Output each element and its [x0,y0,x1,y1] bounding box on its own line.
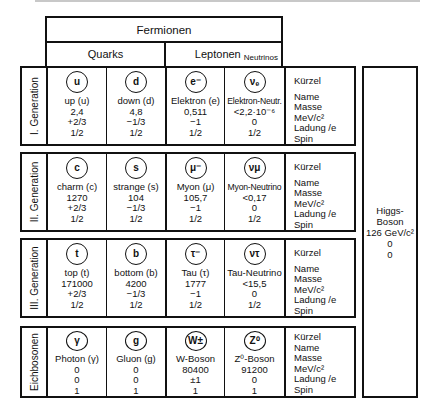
quarks-header: Quarks [45,41,166,68]
generation-3-row: III. Generation ttop (t)171000+2/31/2 bb… [20,238,356,318]
quarks-label: Quarks [88,48,123,60]
generation-1-row: I. Generation uup (u)2,4+2/31/2 ddown (d… [20,66,356,146]
particle-photon: γPhoton (γ)001 [48,328,107,396]
particle-symbol: t [66,243,88,265]
leptons-label: Leptonen [195,48,241,60]
higgs-mass: 126 GeV/c² [366,227,414,238]
higgs-spin: 0 [387,249,392,260]
particle-tau: τ⁻Tau (τ)1777−11/2 [167,240,225,316]
fermionen-header: Fermionen [45,16,283,43]
particle-strange: sstrange (s)104−1/31/2 [107,154,167,230]
particle-top: ttop (t)171000+2/31/2 [48,240,107,316]
particle-symbol: τ⁻ [185,243,207,265]
neutrinos-label: Neutrinos [244,53,278,62]
particle-charm: ccharm (c)1270+2/31/2 [48,154,107,230]
particle-symbol: W± [185,331,207,351]
generation-label: II. Generation [22,154,48,230]
particle-symbol: c [66,157,88,179]
particle-symbol: s [125,157,147,179]
particle-symbol: νμ [244,157,266,179]
leptons-header: Leptonen Neutrinos [164,41,283,68]
particle-symbol: ντ [244,243,266,265]
particle-symbol: g [125,331,147,351]
generation-label: III. Generation [22,240,48,316]
particle-symbol: u [66,71,88,93]
fermionen-title: Fermionen [137,24,192,36]
particle-z-boson: Z⁰Z⁰-Boson9120001 [225,328,286,396]
particle-w-boson: W±W-Boson80400±11 [167,328,225,396]
particle-bottom: bbottom (b)4200−1/31/2 [107,240,167,316]
particle-muon-neutrino: νμMyon-Neutrino<0,1701/2 [225,154,286,230]
particle-symbol: νₑ [244,71,266,93]
gauge-bosons-row: Eichbosonen γPhoton (γ)001 gGluon (g)001… [20,326,356,398]
legend: KürzelNameMasse MeV/c²Ladung /eSpin [286,328,354,396]
particle-up: uup (u)2,4+2/31/2 [48,68,107,144]
particle-symbol: γ [66,331,88,351]
higgs-charge: 0 [387,238,392,249]
legend: KürzelNameMasse MeV/c²Ladung /eSpin [286,240,354,316]
particle-electron-neutrino: νₑElektron-Neutr.<2,2·10⁻⁶01/2 [225,68,286,144]
particle-muon: μ⁻Myon (μ)105,7−11/2 [167,154,225,230]
generation-label: Eichbosonen [22,328,48,396]
particle-symbol: Z⁰ [244,331,266,351]
particle-symbol: μ⁻ [185,157,207,179]
legend: KürzelNameMasse MeV/c²Ladung /eSpin [286,154,354,230]
top-divider [35,0,420,2]
particle-symbol: d [125,71,147,93]
particle-tau-neutrino: ντTau-Neutrino<15,501/2 [225,240,286,316]
particle-down: ddown (d)4,8−1/31/2 [107,68,167,144]
higgs-name: Higgs-Boson [364,205,416,227]
particle-gluon: gGluon (g)001 [107,328,167,396]
generation-2-row: II. Generation ccharm (c)1270+2/31/2 sst… [20,152,356,232]
particle-electron: e⁻Elektron (e)0,511−11/2 [167,68,225,144]
higgs-boson-box: Higgs-Boson 126 GeV/c² 0 0 [362,66,418,398]
legend: KürzelNameMasse MeV/c²Ladung /eSpin [286,68,354,144]
particle-symbol: b [125,243,147,265]
particle-symbol: e⁻ [185,71,207,93]
generation-label: I. Generation [22,68,48,144]
